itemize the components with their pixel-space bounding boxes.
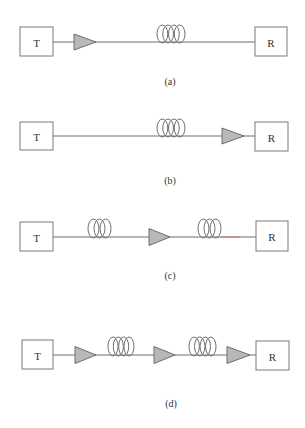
receiver-box: R <box>256 341 289 370</box>
amplifier-triangle-icon <box>149 229 170 246</box>
receiver-box: R <box>255 27 287 56</box>
amplifier-triangle-icon <box>154 347 175 364</box>
panel-caption: (b) <box>164 175 176 187</box>
amplifier-triangle-icon <box>227 347 250 364</box>
transmitter-label: T <box>33 131 40 143</box>
panel-c: TR(c) <box>20 219 288 282</box>
fiber-spool-icon <box>108 337 134 356</box>
fiber-spool-icon <box>157 119 185 137</box>
panel-b: TR(b) <box>20 119 288 187</box>
transmitter-box: T <box>22 340 53 369</box>
amplifier-triangle-icon <box>222 128 244 144</box>
receiver-label: R <box>267 37 275 49</box>
amplifier-triangle-icon <box>74 34 96 50</box>
receiver-label: R <box>268 231 276 243</box>
transmitter-box: T <box>20 122 53 150</box>
fiber-spool-icon <box>88 219 111 238</box>
panel-caption: (d) <box>165 398 177 410</box>
fiber-spool-icon <box>157 25 185 43</box>
transmitter-box: T <box>20 222 53 251</box>
receiver-box: R <box>256 221 288 251</box>
fiber-spool-icon <box>189 337 216 356</box>
receiver-box: R <box>255 122 288 151</box>
link-configuration-diagram: TR(a)TR(b)TR(c)TR(d) <box>0 0 305 428</box>
fiber-spool-icon <box>198 219 221 238</box>
receiver-label: R <box>269 351 277 363</box>
panel-caption: (a) <box>164 76 175 88</box>
panel-caption: (c) <box>164 270 175 282</box>
transmitter-label: T <box>33 37 40 49</box>
receiver-label: R <box>268 132 276 144</box>
panel-a: TR(a) <box>20 25 287 88</box>
panel-d: TR(d) <box>22 337 289 410</box>
transmitter-box: T <box>20 27 53 56</box>
transmitter-label: T <box>33 232 40 244</box>
transmitter-label: T <box>34 350 41 362</box>
amplifier-triangle-icon <box>75 347 96 364</box>
